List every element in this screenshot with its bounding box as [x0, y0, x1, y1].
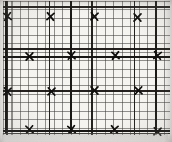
paper-background — [0, 0, 172, 142]
plot-mark-x — [24, 124, 34, 134]
plot-mark-x — [152, 126, 161, 135]
axis-line-vertical-right — [155, 1, 157, 134]
plot-mark-x — [2, 11, 12, 21]
plot-mark-x — [2, 86, 12, 96]
plot-mark-x — [24, 51, 33, 60]
plot-mark-x — [132, 12, 141, 21]
plot-mark-x — [66, 50, 75, 59]
plot-mark-x — [66, 124, 76, 134]
plot-mark-x — [110, 50, 120, 60]
plot-mark-x — [109, 124, 119, 134]
plot-mark-x — [90, 86, 99, 95]
axis-line-vertical-middle — [70, 1, 72, 134]
plot-mark-x — [152, 50, 162, 60]
plot-mark-x — [89, 11, 98, 20]
plot-mark-x — [46, 86, 55, 95]
plot-mark-x — [133, 85, 142, 94]
scanned-graph-paper — [0, 0, 172, 142]
plot-mark-x — [45, 11, 55, 21]
